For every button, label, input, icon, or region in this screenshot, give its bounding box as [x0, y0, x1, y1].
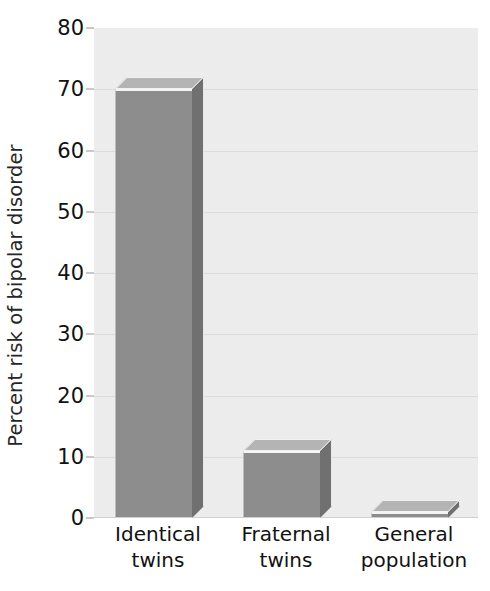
y-axis-tick-mark — [86, 456, 94, 458]
y-axis-tick-mark — [86, 150, 94, 152]
y-axis-tick-label: 80 — [57, 18, 84, 39]
bar-side-face — [320, 439, 332, 518]
bar-1 — [115, 89, 192, 518]
x-axis-tick-label-line: twins — [222, 548, 350, 574]
bar-front-face — [243, 451, 320, 518]
x-axis-tick-label-line: Identical — [94, 522, 222, 548]
y-axis-tick-mark — [86, 272, 94, 274]
y-axis-tick-label: 10 — [57, 446, 84, 467]
y-axis-tick-labels: 01020304050607080 — [38, 0, 94, 591]
y-axis-tick-mark — [86, 27, 94, 29]
bar-top-face — [243, 439, 332, 451]
x-axis-tick-label: Identicaltwins — [94, 522, 222, 573]
y-axis-tick-label: 70 — [57, 79, 84, 100]
y-axis-tick-label: 20 — [57, 385, 84, 406]
y-axis-title: Percent risk of bipolar disorder — [0, 0, 34, 591]
y-axis-tick-label: 30 — [57, 324, 84, 345]
y-axis-tick-mark — [86, 333, 94, 335]
y-axis-tick-mark — [86, 395, 94, 397]
bar-2 — [243, 451, 320, 518]
x-axis-tick-label-line: population — [350, 548, 478, 574]
x-axis-tick-labels: IdenticaltwinsFraternaltwinsGeneralpopul… — [94, 522, 478, 591]
x-axis-tick-label-line: General — [350, 522, 478, 548]
y-axis-tick-label: 60 — [57, 140, 84, 161]
x-axis-tick-label-line: twins — [94, 548, 222, 574]
bar-top-face — [115, 77, 204, 89]
x-axis-baseline — [94, 517, 478, 518]
bar-side-face — [192, 77, 204, 518]
x-axis-tick-label: Fraternaltwins — [222, 522, 350, 573]
y-axis-tick-mark — [86, 88, 94, 90]
bar-top-face — [371, 500, 460, 512]
y-axis-tick-mark — [86, 211, 94, 213]
y-axis-tick-label: 0 — [71, 508, 84, 529]
y-axis-tick-mark — [86, 517, 94, 519]
y-axis-tick-label: 50 — [57, 201, 84, 222]
y-axis-tick-label: 40 — [57, 263, 84, 284]
bar-front-face — [115, 89, 192, 518]
plot-area — [94, 28, 478, 518]
x-axis-tick-label-line: Fraternal — [222, 522, 350, 548]
bar-chart-figure: Percent risk of bipolar disorder 0102030… — [0, 0, 490, 591]
x-axis-tick-label: Generalpopulation — [350, 522, 478, 573]
